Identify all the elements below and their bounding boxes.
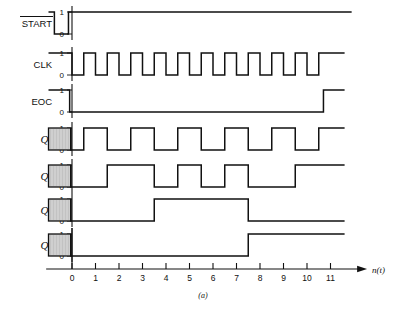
axis-arrowhead — [357, 266, 367, 272]
waveform-q3 — [71, 234, 345, 256]
axis-tick-label: 7 — [234, 273, 239, 283]
signal-row-start: 10START — [20, 6, 352, 40]
timing-diagram-svg: 10START10CLK10EOC10Q010Q110Q210Q3 012345… — [0, 0, 409, 312]
level-label-low: 0 — [60, 71, 65, 80]
waveform-q0 — [71, 128, 345, 150]
waveform-q2 — [71, 199, 345, 221]
axis-tick-label: 4 — [164, 273, 169, 283]
signal-row-q1: 10Q1 — [41, 159, 345, 193]
axis-tick-label: 1 — [93, 273, 98, 283]
signal-label-start: START — [22, 18, 52, 29]
waveform-q1 — [71, 165, 345, 187]
axis-tick-label: 10 — [302, 273, 312, 283]
timing-diagram-figure: 10START10CLK10EOC10Q010Q110Q210Q3 012345… — [0, 0, 409, 312]
axis-label: n(t) — [372, 265, 385, 275]
level-label-low: 0 — [60, 108, 65, 117]
axis-tick-label: 6 — [211, 273, 216, 283]
axis-tick-label: 9 — [281, 273, 286, 283]
signal-row-q2: 10Q2 — [41, 193, 345, 227]
axis-tick-label: 3 — [140, 273, 145, 283]
signal-row-q3: 10Q3 — [41, 228, 345, 262]
axis-tick-label: 2 — [117, 273, 122, 283]
axis-tick-label: 8 — [258, 273, 263, 283]
signal-row-clk: 10CLK — [34, 47, 345, 81]
figure-caption: (a) — [198, 291, 208, 300]
waveform-clk — [49, 53, 345, 75]
signal-row-q0: 10Q0 — [41, 122, 345, 156]
waveform-start — [49, 12, 352, 34]
level-label-high: 1 — [60, 8, 65, 17]
axis-tick-label: 0 — [70, 273, 75, 283]
waveform-rows: 10START10CLK10EOC10Q010Q110Q210Q3 — [20, 6, 352, 262]
signal-label-eoc: EOC — [31, 96, 52, 107]
signal-row-eoc: 10EOC — [31, 84, 344, 118]
waveform-eoc — [49, 90, 345, 112]
signal-label-clk: CLK — [34, 59, 53, 70]
axis-tick-label: 5 — [187, 273, 192, 283]
axis-tick-label: 11 — [326, 273, 335, 283]
